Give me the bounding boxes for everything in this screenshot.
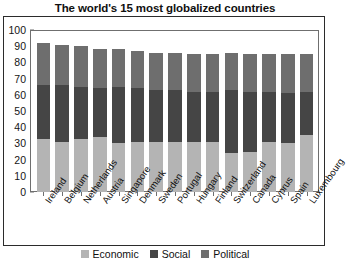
bar-segment-economic[interactable] — [37, 139, 51, 192]
x-axis-label-cell: Ireland — [34, 196, 53, 246]
bar-segment-political[interactable] — [131, 51, 145, 88]
x-axis-label-cell: Cyprus — [260, 196, 279, 246]
bar-column[interactable] — [203, 30, 222, 192]
x-axis-label-cell: Austria — [90, 196, 109, 246]
bar-segment-social[interactable] — [187, 92, 201, 142]
x-axis-label-cell: Finland — [203, 196, 222, 246]
y-axis-tick-label: 10 — [14, 171, 26, 182]
legend-label: Economic — [93, 248, 139, 260]
bar-segment-social[interactable] — [74, 87, 88, 139]
bar-segment-social[interactable] — [37, 85, 51, 138]
bar-segment-social[interactable] — [206, 92, 220, 142]
y-axis-tick-label: 0 — [20, 187, 26, 198]
x-axis-labels: IrelandBelgiumNetherlandsAustriaSingapor… — [31, 196, 319, 246]
chart-title: The world's 15 most globalized countries — [0, 2, 330, 14]
x-axis-label-cell: Luxembourg — [297, 196, 316, 246]
x-axis-label-cell: Belgium — [53, 196, 72, 246]
y-axis: 0102030405060708090100 — [0, 30, 26, 192]
bar-segment-political[interactable] — [168, 53, 182, 90]
bar-segment-political[interactable] — [262, 54, 276, 91]
y-axis-tick-label: 90 — [14, 41, 26, 52]
bar-segment-political[interactable] — [300, 54, 314, 91]
bar-segment-political[interactable] — [55, 45, 69, 86]
bar-column[interactable] — [278, 30, 297, 192]
x-axis-label-cell: Portugal — [166, 196, 185, 246]
x-axis-label-cell: Netherlands — [72, 196, 91, 246]
stacked-bar[interactable] — [74, 46, 88, 192]
bar-segment-social[interactable] — [168, 90, 182, 142]
bar-segment-social[interactable] — [281, 93, 295, 143]
y-axis-tick-label: 60 — [14, 90, 26, 101]
bar-segment-political[interactable] — [243, 54, 257, 91]
bar-segment-social[interactable] — [262, 92, 276, 142]
bar-segment-political[interactable] — [206, 54, 220, 91]
bar-segment-political[interactable] — [37, 43, 51, 85]
bar-segment-social[interactable] — [243, 92, 257, 152]
stacked-bar[interactable] — [55, 45, 69, 192]
legend-label: Political — [213, 248, 249, 260]
bar-segment-social[interactable] — [131, 88, 145, 141]
x-axis-label-cell: Canada — [241, 196, 260, 246]
bar-segment-political[interactable] — [281, 54, 295, 93]
bar-column[interactable] — [184, 30, 203, 192]
bar-segment-political[interactable] — [74, 46, 88, 87]
chart-legend: EconomicSocialPolitical — [0, 248, 330, 260]
y-axis-tick-label: 80 — [14, 57, 26, 68]
x-axis-label-cell: Spain — [278, 196, 297, 246]
y-axis-tick-label: 70 — [14, 73, 26, 84]
bar-column[interactable] — [53, 30, 72, 192]
bar-segment-social[interactable] — [225, 90, 239, 153]
stacked-bar[interactable] — [225, 53, 239, 192]
x-axis-label-cell: Sweden — [147, 196, 166, 246]
bar-segment-political[interactable] — [93, 49, 107, 88]
bar-segment-political[interactable] — [225, 53, 239, 90]
legend-item[interactable]: Social — [150, 248, 191, 260]
bar-series-group — [31, 30, 319, 192]
y-axis-tick-label: 20 — [14, 154, 26, 165]
x-axis-label-cell: Singapore — [109, 196, 128, 246]
legend-swatch-icon — [201, 250, 209, 258]
bar-segment-social[interactable] — [300, 92, 314, 136]
x-axis-label-cell: Switzerland — [222, 196, 241, 246]
bar-segment-political[interactable] — [187, 54, 201, 91]
y-axis-tick-label: 100 — [8, 25, 26, 36]
bar-column[interactable] — [297, 30, 316, 192]
stacked-bar[interactable] — [281, 54, 295, 192]
bar-segment-social[interactable] — [55, 85, 69, 142]
bar-column[interactable] — [222, 30, 241, 192]
legend-swatch-icon — [81, 250, 89, 258]
legend-item[interactable]: Political — [201, 248, 249, 260]
stacked-bar[interactable] — [37, 43, 51, 192]
bar-column[interactable] — [166, 30, 185, 192]
bar-column[interactable] — [72, 30, 91, 192]
x-axis-label-cell: Denmark — [128, 196, 147, 246]
y-axis-tick-label: 40 — [14, 122, 26, 133]
bar-column[interactable] — [34, 30, 53, 192]
x-axis-label-cell: Hungary — [184, 196, 203, 246]
bar-segment-political[interactable] — [112, 49, 126, 86]
legend-item[interactable]: Economic — [81, 248, 139, 260]
legend-swatch-icon — [150, 250, 158, 258]
y-axis-tick-label: 50 — [14, 106, 26, 117]
bar-segment-social[interactable] — [93, 88, 107, 137]
y-axis-tick-label: 30 — [14, 138, 26, 149]
bar-segment-social[interactable] — [112, 87, 126, 144]
bar-segment-social[interactable] — [149, 90, 163, 142]
bar-segment-political[interactable] — [149, 53, 163, 90]
legend-label: Social — [162, 248, 191, 260]
stacked-bar[interactable] — [300, 54, 314, 192]
